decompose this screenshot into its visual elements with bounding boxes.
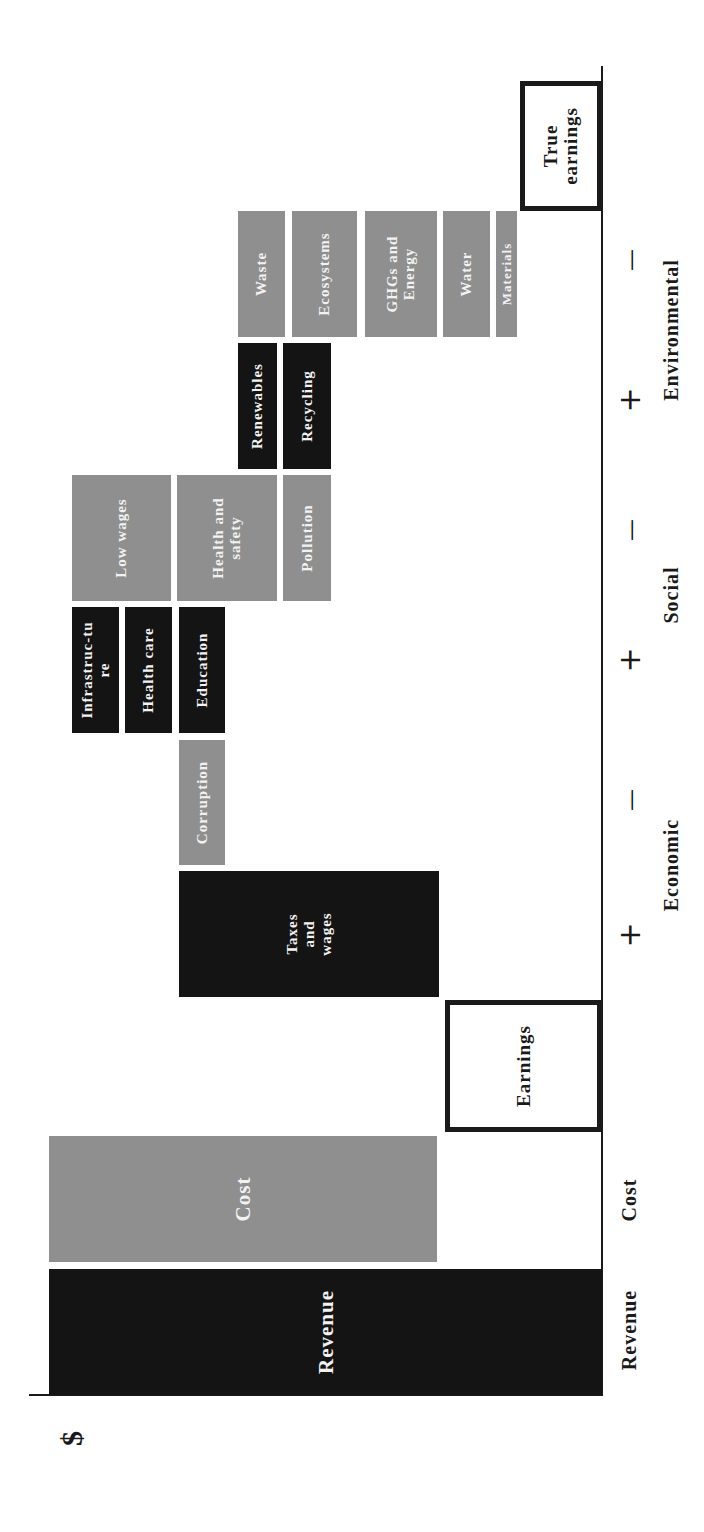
bar-ecosystems: Ecosystems — [292, 211, 357, 337]
bar-true-earnings: True earnings — [520, 81, 602, 211]
bar-revenue: Revenue — [49, 1269, 602, 1395]
bar-waste: Waste — [238, 211, 285, 337]
bar-low-wages: Low wages — [72, 475, 171, 601]
x-group-economic: Economic — [660, 819, 683, 911]
bar-health-and-safety: Health and safety — [177, 475, 277, 601]
bar-earnings: Earnings — [445, 1000, 602, 1132]
bar-water: Water — [443, 211, 490, 337]
bar-health-care: Health care — [125, 607, 172, 733]
bar-infrastructure: Infrastruc-ture — [72, 607, 119, 733]
x-axis-line — [601, 66, 603, 1395]
minus-icon-social: — — [618, 519, 643, 541]
minus-icon-economic: — — [618, 789, 643, 811]
bar-cost: Cost — [49, 1136, 437, 1262]
plus-icon-economic: + — [612, 922, 647, 947]
x-label-cost: Cost — [618, 1179, 641, 1222]
bar-renewables: Renewables — [238, 343, 277, 469]
x-label-revenue: Revenue — [618, 1290, 641, 1370]
bar-taxes-and-wages: Taxes and wages — [179, 871, 439, 997]
bar-corruption: Corruption — [179, 740, 225, 865]
bar-recycling: Recycling — [283, 343, 331, 469]
y-axis-dollar-label: $ — [55, 1431, 89, 1446]
bar-education: Education — [179, 607, 225, 733]
minus-icon-environmental: — — [618, 249, 643, 271]
waterfall-chart: $ Revenue Cost Earnings Taxes and wages … — [0, 0, 704, 1532]
bar-ghgs-and-energy: GHGs and Energy — [365, 211, 437, 337]
x-group-environmental: Environmental — [660, 259, 683, 401]
x-group-social: Social — [660, 566, 683, 623]
bar-pollution: Pollution — [283, 475, 331, 601]
plus-icon-social: + — [612, 647, 647, 672]
bar-materials: Materials — [496, 211, 517, 337]
plus-icon-environmental: + — [612, 387, 647, 412]
